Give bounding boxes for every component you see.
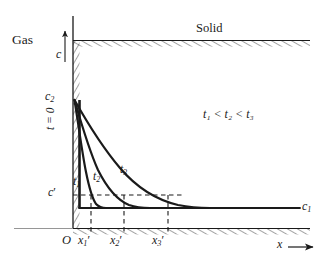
solid-region-label: Solid [196,22,222,35]
c1-label: c1 [302,200,311,214]
curve-label-t2: t2 [93,171,100,184]
solid-top-hatch [73,41,310,47]
c-prime-mark: ′ [53,185,56,199]
figure-canvas: Gas Solid c c2 c′ c1 t = 0 t1 t2 t3 t₁ <… [0,0,322,266]
curve-label-t3: t3 [120,164,127,177]
c-axis-label: c [56,48,61,60]
x2-prime-tick-label: x2′ [110,234,122,248]
gas-region-label: Gas [12,33,33,47]
x2-prime-mark: ′ [119,233,122,247]
x1-prime-tick-label: x1′ [78,234,90,248]
curve-t3 [75,100,211,208]
concentration-profile-svg [0,0,322,266]
c-prime-label: c′ [48,186,56,198]
t2-subscript: 2 [96,175,100,184]
t3-subscript: 3 [123,168,127,177]
c1-subscript: 1 [307,205,311,214]
origin-label: O [62,234,71,247]
c2-subscript: 2 [50,95,54,104]
x3-prime-tick-label: x3′ [152,234,164,248]
c2-label: c2 [45,90,54,104]
time-ordering-annotation: t₁ < t₂ < t₃ [203,108,254,120]
t-zero-label: t = 0 [45,108,57,130]
x-axis-label: x [277,238,282,250]
curve-t2 [75,100,151,208]
t1-subscript: 1 [76,180,80,189]
curve-label-t1: t1 [73,176,80,189]
x3-prime-mark: ′ [161,233,164,247]
x1-prime-mark: ′ [87,233,90,247]
